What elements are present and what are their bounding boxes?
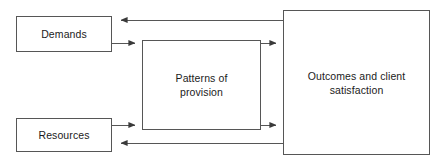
node-outcomes-and-client-satisfaction[interactable]: Outcomes and client satisfaction	[283, 10, 430, 155]
node-resources-label: Resources	[34, 128, 93, 142]
node-patterns-of-provision[interactable]: Patterns of provision	[142, 40, 261, 130]
node-resources[interactable]: Resources	[16, 118, 112, 152]
node-patterns-of-provision-label: Patterns of provision	[172, 71, 232, 99]
diagram-canvas: Demands Resources Patterns of provision …	[0, 0, 445, 162]
node-demands-label: Demands	[37, 27, 91, 41]
node-demands[interactable]: Demands	[16, 16, 112, 52]
node-outcomes-and-client-satisfaction-label: Outcomes and client satisfaction	[304, 69, 410, 97]
